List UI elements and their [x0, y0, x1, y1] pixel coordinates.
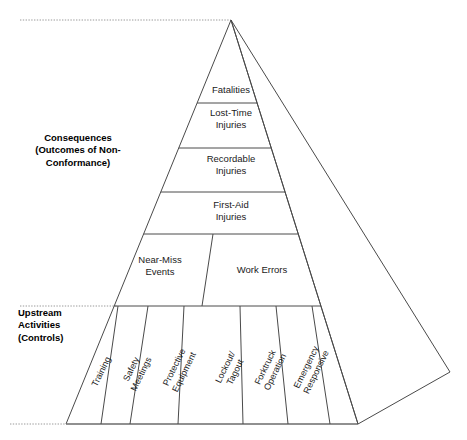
- column-label-protective-equipment: ProtectiveEquipment: [161, 345, 199, 393]
- side-label-upstream-line-2: (Controls): [18, 332, 63, 343]
- side-label-consequences-line-2: Conformance): [46, 157, 110, 168]
- tier-label-work-errors-line-0: Work Errors: [237, 264, 288, 275]
- mid-band-divider-group: [202, 234, 213, 306]
- tier-label-work-errors: Work Errors: [237, 264, 288, 275]
- side-label-consequences: Consequences(Outcomes of Non-Conformance…: [35, 132, 121, 168]
- safety-pyramid-diagram: FatalitiesLost-TimeInjuriesRecordableInj…: [0, 0, 467, 440]
- column-label-training: Training: [90, 355, 113, 388]
- guide-lines: [10, 20, 231, 424]
- tier-label-lost-time-injuries-line-1: Injuries: [216, 119, 247, 130]
- tier-label-near-miss-events-line-0: Near-Miss: [138, 254, 182, 265]
- tier-label-near-miss-events: Near-MissEvents: [138, 254, 182, 277]
- side-annotations: Consequences(Outcomes of Non-Conformance…: [18, 132, 121, 343]
- side-label-upstream-line-0: Upstream: [18, 307, 62, 318]
- tier-label-lost-time-injuries: Lost-TimeInjuries: [210, 107, 252, 130]
- tier-label-first-aid-injuries-line-1: Injuries: [216, 211, 247, 222]
- tier-label-lost-time-injuries-line-0: Lost-Time: [210, 107, 252, 118]
- tier-label-first-aid-injuries: First-AidInjuries: [213, 199, 248, 222]
- column-label-emergency-responsive: EmergencyResponsive: [292, 344, 331, 395]
- column-label-safety-meetings: SafetyMeetings: [119, 350, 154, 392]
- tier-label-near-miss-events-line-1: Events: [145, 266, 174, 277]
- side-label-upstream: UpstreamActivities(Controls): [18, 307, 63, 343]
- tier-label-recordable-injuries: RecordableInjuries: [207, 153, 256, 176]
- tier-labels: FatalitiesLost-TimeInjuriesRecordableInj…: [138, 84, 287, 277]
- column-label-training-line-0: Training: [90, 355, 113, 388]
- column-label-forktruck-operation: ForktruckOperation: [252, 347, 288, 392]
- tier-label-fatalities-line-0: Fatalities: [212, 84, 250, 95]
- side-label-consequences-line-0: Consequences: [44, 132, 112, 143]
- tier-label-fatalities: Fatalities: [212, 84, 250, 95]
- tier-label-recordable-injuries-line-1: Injuries: [216, 165, 247, 176]
- side-label-consequences-line-1: (Outcomes of Non-: [35, 144, 121, 155]
- pyramid-figure: FatalitiesLost-TimeInjuriesRecordableInj…: [0, 0, 467, 440]
- side-label-upstream-line-1: Activities: [18, 319, 60, 330]
- near-miss-work-errors-divider: [202, 234, 213, 306]
- tier-label-first-aid-injuries-line-0: First-Aid: [213, 199, 248, 210]
- column-labels: TrainingSafetyMeetingsProtectiveEquipmen…: [90, 344, 331, 395]
- tier-label-recordable-injuries-line-0: Recordable: [207, 153, 256, 164]
